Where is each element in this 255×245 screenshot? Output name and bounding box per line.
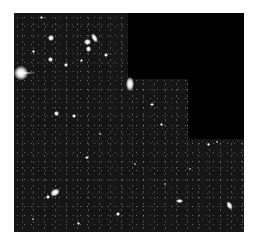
galaxy: [32, 50, 35, 53]
galaxy: [64, 63, 68, 67]
galaxy: [40, 16, 43, 19]
galaxy: [46, 195, 50, 199]
galaxy: [164, 183, 166, 185]
galaxy: [150, 103, 154, 106]
galaxy: [134, 163, 136, 165]
galaxy: [80, 59, 83, 62]
galaxy: [225, 200, 234, 210]
galaxy: [32, 218, 34, 220]
galaxy: [86, 46, 91, 52]
galaxy: [189, 168, 191, 170]
galaxy: [116, 212, 120, 216]
galaxy: [49, 187, 61, 198]
galaxy: [176, 199, 183, 203]
galaxy: [216, 141, 218, 143]
galaxy: [90, 32, 99, 43]
galaxy: [104, 53, 108, 57]
galaxy: [207, 143, 210, 146]
galaxy: [48, 35, 54, 41]
galaxy: [84, 39, 91, 45]
mask-block: [188, 79, 244, 139]
galaxy: [48, 57, 53, 62]
mask-block: [128, 13, 244, 79]
galaxy: [72, 114, 76, 118]
galaxy: [54, 111, 59, 116]
galaxy: [99, 133, 101, 135]
galaxy: [160, 123, 163, 126]
deep-field-image: [14, 13, 244, 232]
galaxy: [77, 222, 80, 225]
bright-star-spike: [14, 72, 36, 74]
galaxy: [85, 156, 89, 159]
galaxy: [126, 77, 134, 91]
